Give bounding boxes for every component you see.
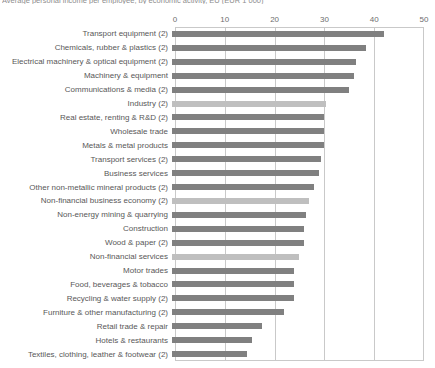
bar-track [172,347,421,361]
bar-track [172,138,421,152]
bar-row: Furniture & other manufacturing (2) [0,305,435,319]
bar [172,114,324,120]
bar-row: Retail trade & repair [0,319,435,333]
bar [172,128,324,134]
bar-row: Transport services (2) [0,152,435,166]
bar-rows: Transport equipment (2)Chemicals, rubber… [0,27,435,361]
bar-row: Construction [0,222,435,236]
bar-row-label: Business services [0,169,172,178]
bar-track [172,152,421,166]
bar-row-label: Retail trade & repair [0,322,172,331]
x-tick-30: 30 [320,15,329,24]
bar-row-label: Real estate, renting & R&D (2) [0,113,172,122]
x-tick-20: 20 [270,15,279,24]
bar-row-label: Hotels & restaurants [0,336,172,345]
bar-row-label: Furniture & other manufacturing (2) [0,308,172,317]
bar-track [172,333,421,347]
bar [172,31,384,37]
bar [172,337,252,343]
bar-row: Communications & media (2) [0,83,435,97]
bar [172,170,319,176]
x-tick-0: 0 [173,15,177,24]
bar [172,156,321,162]
bar [172,198,309,204]
bar-row: Real estate, renting & R&D (2) [0,111,435,125]
bar [172,101,326,107]
bar-track [172,278,421,292]
bar-row-label: Non-financial business economy (2) [0,196,172,205]
bar [172,323,262,329]
bar [172,351,247,357]
bar [172,254,299,260]
bar-track [172,41,421,55]
bar-row: Industry (2) [0,97,435,111]
bar-row: Transport equipment (2) [0,27,435,41]
bar-track [172,250,421,264]
bar [172,142,324,148]
bar-row-label: Communications & media (2) [0,85,172,94]
bar-track [172,83,421,97]
bar-track [172,194,421,208]
bar-track [172,291,421,305]
bar-track [172,166,421,180]
bar-row: Motor trades [0,264,435,278]
bar-track [172,97,421,111]
bar-track [172,222,421,236]
bar-track [172,180,421,194]
x-tick-10: 10 [220,15,229,24]
bar [172,281,294,287]
bar-row-label: Metals & metal products [0,141,172,150]
bar-row-label: Non-financial services [0,252,172,261]
bar-row: Textiles, clothing, leather & footwear (… [0,347,435,361]
bar-row: Other non-metallic mineral products (2) [0,180,435,194]
bar-track [172,69,421,83]
bar-row: Machinery & equipment [0,69,435,83]
bar-row-label: Wood & paper (2) [0,238,172,247]
bar-row: Metals & metal products [0,138,435,152]
bar-row: Wholesale trade [0,124,435,138]
bar-track [172,264,421,278]
bar-track [172,111,421,125]
bar [172,309,284,315]
x-tick-50: 50 [420,15,429,24]
bar [172,295,294,301]
x-axis-tick-labels: 01020304050 [0,15,435,27]
bar-row-label: Food, beverages & tobacco [0,280,172,289]
bar-track [172,236,421,250]
bar-row-label: Transport equipment (2) [0,29,172,38]
bar-row-label: Textiles, clothing, leather & footwear (… [0,350,172,359]
bar-row-label: Electrical machinery & optical equipment… [0,57,172,66]
bar [172,59,356,65]
bar [172,240,304,246]
bar [172,45,366,51]
bar-row-label: Chemicals, rubber & plastics (2) [0,43,172,52]
bar-row-label: Non-energy mining & quarrying [0,210,172,219]
bar-row: Hotels & restaurants [0,333,435,347]
bar [172,184,314,190]
bar-row: Chemicals, rubber & plastics (2) [0,41,435,55]
bar [172,212,306,218]
chart-title: Average personal income per employee, by… [2,0,432,4]
bar-row: Food, beverages & tobacco [0,278,435,292]
bar-row-label: Construction [0,224,172,233]
bar-row: Recycling & water supply (2) [0,291,435,305]
bar-row: Business services [0,166,435,180]
bar-row: Non-energy mining & quarrying [0,208,435,222]
bar-row-label: Motor trades [0,266,172,275]
bar-row: Non-financial services [0,250,435,264]
bar-row-label: Other non-metallic mineral products (2) [0,183,172,192]
bar-row-label: Transport services (2) [0,155,172,164]
bar [172,73,354,79]
bar-row-label: Industry (2) [0,99,172,108]
x-tick-40: 40 [370,15,379,24]
bar-track [172,305,421,319]
bar-row-label: Wholesale trade [0,127,172,136]
bar [172,268,294,274]
bar-chart: Average personal income per employee, by… [0,0,435,368]
bar-row-label: Machinery & equipment [0,71,172,80]
bar-track [172,27,421,41]
bar-track [172,208,421,222]
bar [172,226,304,232]
bar-track [172,319,421,333]
bar-row: Electrical machinery & optical equipment… [0,55,435,69]
